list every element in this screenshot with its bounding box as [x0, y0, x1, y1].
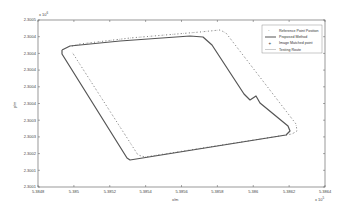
x-tick-label: 5.3862 — [283, 189, 296, 194]
legend-item-route: Testing Route — [279, 48, 301, 52]
y-tick-label: 2.3004 — [24, 51, 37, 56]
legend-item-proposed: Proposed Method — [279, 35, 307, 39]
x-axis-label: x/m — [172, 197, 179, 202]
legend-item-reference: Reference Point Position — [279, 29, 319, 33]
y-tick-label: 2.3004 — [24, 34, 37, 39]
y-tick-label: 2.3005 — [24, 17, 37, 22]
x-exponent-label: x 105 — [315, 196, 325, 202]
trajectory-chart: 2.30052.30042.30042.30042.30042.30042.30… — [0, 0, 348, 213]
y-tick-label: 2.3002 — [24, 151, 37, 156]
legend-marker-plus-icon: + — [269, 41, 272, 46]
x-tick-label: 5.3856 — [175, 189, 188, 194]
y-exponent-label: x 106 — [39, 11, 49, 17]
x-tick-label: 5.3848 — [32, 189, 45, 194]
x-tick-label: 5.3852 — [104, 189, 117, 194]
y-tick-label: 2.3004 — [24, 84, 37, 89]
x-tick-label: 5.385 — [69, 189, 80, 194]
y-axis-label: y/m — [12, 101, 17, 108]
y-tick-label: 2.3001 — [24, 168, 37, 173]
x-tick-label: 5.386 — [248, 189, 259, 194]
y-tick-label: 2.3004 — [24, 67, 37, 72]
legend: · Reference Point Position Proposed Meth… — [262, 25, 322, 53]
legend-item-matched: Image Matched point — [279, 41, 313, 45]
y-tick-label: 2.3003 — [24, 134, 37, 139]
y-tick-label: 2.3003 — [24, 118, 37, 123]
y-tick-label: 2.3004 — [24, 101, 37, 106]
x-tick-label: 5.3864 — [319, 189, 332, 194]
x-tick-label: 5.3854 — [140, 189, 153, 194]
x-tick-label: 5.3858 — [211, 189, 224, 194]
